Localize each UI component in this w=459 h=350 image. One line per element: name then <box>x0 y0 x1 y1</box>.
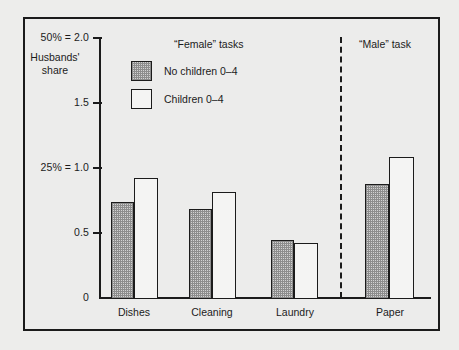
bar-paper-no-children[interactable] <box>365 184 389 299</box>
bar-cleaning-no-children[interactable] <box>189 209 212 299</box>
y-tick-0-5 <box>93 232 102 234</box>
bar-paper-children[interactable] <box>389 157 414 299</box>
y-tick-label-1-0: 25% = 1.0 <box>41 161 89 173</box>
bar-laundry-no-children[interactable] <box>271 240 294 299</box>
y-tick-label-1-5: 1.5 <box>74 96 89 108</box>
legend-swatch-shaded-icon <box>131 61 152 81</box>
legend-label-no-children: No children 0–4 <box>164 65 238 77</box>
y-tick-label-2-0: 50% = 2.0 <box>41 31 89 43</box>
category-label-laundry: Laundry <box>255 306 335 318</box>
male-task-header: “Male” task <box>359 38 411 50</box>
category-label-dishes: Dishes <box>94 306 174 318</box>
y-tick-label-0-5: 0.5 <box>74 226 89 238</box>
plot-area: 50% = 2.0 1.5 25% = 1.0 0.5 0 Husbands' … <box>0 0 459 350</box>
y-tick-label-0: 0 <box>83 291 89 303</box>
y-axis-title-line1: Husbands' <box>20 51 90 64</box>
bar-cleaning-children[interactable] <box>212 192 236 299</box>
legend-label-children: Children 0–4 <box>164 93 224 105</box>
female-tasks-header: “Female” tasks <box>174 38 243 50</box>
group-divider-line <box>340 37 342 298</box>
legend-swatch-open-icon <box>131 89 152 109</box>
bar-dishes-children[interactable] <box>134 178 158 299</box>
bar-laundry-children[interactable] <box>294 243 318 299</box>
chart-figure: 50% = 2.0 1.5 25% = 1.0 0.5 0 Husbands' … <box>0 0 459 350</box>
y-axis-title-line2: share <box>20 64 90 77</box>
category-label-cleaning: Cleaning <box>172 306 252 318</box>
y-axis-title: Husbands' share <box>20 51 90 76</box>
category-label-paper: Paper <box>350 306 430 318</box>
y-tick-1-5 <box>93 102 102 104</box>
bar-dishes-no-children[interactable] <box>111 202 134 299</box>
y-tick-1-0 <box>93 167 102 169</box>
y-tick-2-0 <box>93 37 102 39</box>
